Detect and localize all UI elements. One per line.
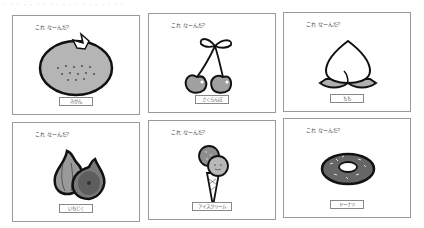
answer-button[interactable]: もも [330, 94, 364, 103]
header-faint-text: ・・・・・・・・・・・・・・・・・・・ [2, 0, 126, 9]
quiz-card-momo[interactable]: これ なーんだ? もも [283, 12, 411, 112]
answer-button[interactable]: ドーナツ [330, 200, 364, 209]
quiz-card-donut[interactable]: これ なーんだ? ドーナツ [283, 118, 411, 218]
quiz-card-mikan[interactable]: これ なーんだ? みかん [12, 15, 140, 115]
answer-button[interactable]: いちじく [59, 204, 93, 213]
quiz-card-icecream[interactable]: これ なーんだ? アイスクリーム [148, 120, 276, 220]
answer-button[interactable]: みかん [59, 97, 93, 106]
quiz-card-sakuranbo[interactable]: これ なーんだ? さくらんぼ [148, 13, 276, 113]
quiz-card-ichijiku[interactable]: これ なーんだ? いちじく [12, 122, 140, 222]
answer-button[interactable]: さくらんぼ [195, 95, 229, 104]
answer-button[interactable]: アイスクリーム [192, 202, 232, 211]
